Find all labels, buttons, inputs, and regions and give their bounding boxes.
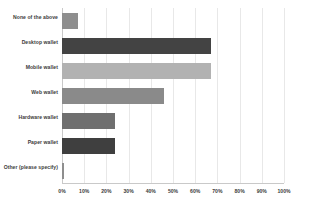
tick-label: 30%	[123, 187, 133, 195]
bar-row	[62, 88, 284, 104]
x-axis-tick-labels: 0%10%20%30%40%50%60%70%80%90%100%	[62, 187, 284, 201]
category-label: Web wallet	[0, 89, 58, 95]
bars-layer	[62, 8, 284, 183]
tick-label: 90%	[257, 187, 267, 195]
bar	[62, 63, 211, 79]
tick-label: 40%	[146, 187, 156, 195]
bar	[62, 138, 115, 154]
category-label: None of the above	[0, 14, 58, 20]
x-axis-line	[62, 183, 284, 184]
bar-row	[62, 38, 284, 54]
category-label: Paper wallet	[0, 139, 58, 145]
bar-chart: None of the aboveDesktop walletMobile wa…	[0, 0, 322, 212]
tick-label: 20%	[101, 187, 111, 195]
tick-label: 80%	[234, 187, 244, 195]
category-label: Other (please specify)	[0, 164, 58, 170]
tick-label: 60%	[190, 187, 200, 195]
bar	[62, 163, 64, 179]
bar	[62, 38, 211, 54]
gridline-100%	[284, 8, 285, 183]
bar	[62, 113, 115, 129]
tick-label: 50%	[168, 187, 178, 195]
bar	[62, 13, 78, 29]
tick-label: 0%	[58, 187, 65, 195]
bar-row	[62, 138, 284, 154]
tick-label: 10%	[79, 187, 89, 195]
bar-row	[62, 113, 284, 129]
category-label: Mobile wallet	[0, 64, 58, 70]
category-label: Desktop wallet	[0, 39, 58, 45]
tick-label: 70%	[212, 187, 222, 195]
plot-area	[62, 8, 284, 183]
bar-row	[62, 13, 284, 29]
bar	[62, 88, 164, 104]
tick-label: 100%	[277, 187, 290, 195]
category-label: Hardware wallet	[0, 114, 58, 120]
bar-row	[62, 163, 284, 179]
category-axis: None of the aboveDesktop walletMobile wa…	[0, 8, 58, 183]
bar-row	[62, 63, 284, 79]
